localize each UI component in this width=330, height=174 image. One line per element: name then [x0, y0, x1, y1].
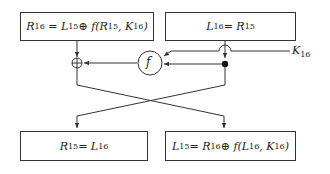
- key-text: K: [292, 44, 300, 57]
- box-l15: L15 = R16 ⊕ f(L16, K16): [165, 131, 296, 161]
- equation-part: ): [143, 20, 147, 33]
- var-l: L: [206, 20, 213, 33]
- equation-part: = R: [224, 20, 245, 33]
- subscript: 16: [275, 142, 285, 151]
- subscript: 16: [213, 22, 223, 31]
- equation-part: ⊕ f(R: [78, 20, 107, 33]
- var-l: L: [172, 140, 179, 153]
- function-label: f: [146, 55, 150, 69]
- equation-part: = L: [48, 20, 68, 33]
- subscript: 15: [68, 142, 78, 151]
- subscript: 15: [108, 22, 118, 31]
- key-label: K16: [292, 44, 310, 59]
- subscript: 15: [179, 142, 189, 151]
- subscript: 16: [300, 50, 310, 59]
- equation-part: = R: [190, 140, 211, 153]
- var-r: R: [60, 140, 68, 153]
- box-l16: L16 = R15: [165, 12, 296, 41]
- subscript: 15: [68, 22, 78, 31]
- equation-part: , K: [259, 140, 274, 153]
- junction-dot: [222, 61, 228, 67]
- equation-part: ⊕ f(L: [221, 140, 249, 153]
- equation-part: , K: [118, 20, 133, 33]
- box-r15: R15 = L16: [20, 131, 148, 161]
- subscript: 16: [98, 142, 108, 151]
- subscript: 16: [249, 142, 259, 151]
- subscript: 16: [35, 22, 45, 31]
- equation-part: ): [285, 140, 289, 153]
- subscript: 15: [245, 22, 255, 31]
- box-r16: R16 = L15 ⊕ f(R15, K16): [20, 12, 154, 41]
- subscript: 16: [211, 142, 221, 151]
- equation-part: = L: [78, 140, 98, 153]
- var-r: R: [26, 20, 34, 33]
- subscript: 16: [133, 22, 143, 31]
